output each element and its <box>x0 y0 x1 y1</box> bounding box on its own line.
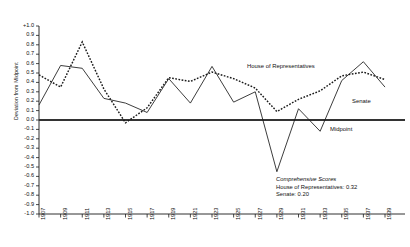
series-label-senate: Senate <box>352 98 371 104</box>
scores-title: Comprehensive Scores <box>276 176 336 184</box>
chart-container: Deviation from Midpoint +1.00.90.80.70.6… <box>0 0 410 247</box>
series-label-house: House of Representatives <box>247 63 315 69</box>
series-label-midpoint: Midpoint <box>330 126 352 132</box>
scores-house-value: House of Representatives: 0.32 <box>276 184 357 192</box>
chart-plot-area <box>0 0 410 247</box>
scores-senate-value: Senate: 0.20 <box>276 191 309 199</box>
